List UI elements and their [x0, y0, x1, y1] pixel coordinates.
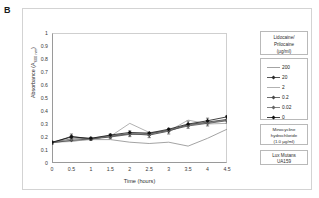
legend-item-label: 2: [282, 85, 285, 90]
y-tick-label: 0: [26, 160, 52, 166]
legend-control-box: Minocycline hydrochloride (1.0 µg/ml): [260, 124, 308, 145]
legend-marker-icon: [266, 63, 281, 72]
legend-marker-icon: [266, 103, 281, 112]
x-tick-label: 3: [167, 166, 170, 172]
legend-item-label: 20: [282, 75, 287, 80]
legend-title-line-2: Prilocaine: [261, 41, 307, 48]
legend-strain-line-2: UA159: [261, 159, 307, 165]
legend-strain-box: Lux Mutans UA159: [260, 150, 308, 165]
legend-marker-icon: [266, 93, 281, 102]
plot-wrapper: 00.10.20.30.40.50.60.70.80.91 00.511.522…: [52, 33, 227, 163]
legend-item[interactable]: 20: [261, 72, 307, 82]
legend-item[interactable]: 0.02: [261, 102, 307, 112]
y-tick-label: 0.6: [26, 82, 52, 88]
legend-marker-icon: [266, 83, 281, 92]
legend-title-line-3: (µg/ml): [261, 48, 307, 55]
legend-marker-icon: [266, 113, 281, 122]
x-tick-label: 2.5: [146, 166, 153, 172]
legend-item-label: 0.2: [282, 95, 289, 100]
legend-items-box: 2002020.20.020: [260, 58, 308, 120]
y-tick-label: 0.7: [26, 69, 52, 75]
legend-item-label: 200: [282, 65, 290, 70]
x-tick-label: 1: [89, 166, 92, 172]
legend-item[interactable]: 200: [261, 62, 307, 72]
y-tick-label: 0.2: [26, 134, 52, 140]
x-tick-label: 3.5: [185, 166, 192, 172]
chart-screenshot: B Absorbance (A600 nm) Time (hours) 00.1…: [0, 0, 319, 198]
legend-item[interactable]: 2: [261, 82, 307, 92]
x-tick-label: 0.5: [68, 166, 75, 172]
plot-series-layer: [52, 33, 227, 163]
panel-label: B: [4, 5, 11, 15]
y-tick-label: 0.1: [26, 147, 52, 153]
legend-item[interactable]: 0: [261, 112, 307, 122]
x-tick-label: 0: [51, 166, 54, 172]
legend-item-label: 0: [282, 115, 285, 120]
legend-title-line-1: Lidocaine/: [261, 34, 307, 41]
series-line: [52, 121, 227, 143]
y-tick-label: 0.8: [26, 56, 52, 62]
series-line: [52, 120, 227, 142]
legend-item-label: 0.02: [282, 105, 291, 110]
y-tick-label: 0.4: [26, 108, 52, 114]
x-tick-label: 1.5: [107, 166, 114, 172]
legend-control-line-3: (1.0 µg/ml): [261, 139, 307, 145]
x-tick-label: 4: [206, 166, 209, 172]
legend-title-box: Lidocaine/ Prilocaine (µg/ml): [260, 31, 308, 55]
x-tick-label: 2: [128, 166, 131, 172]
x-tick-label: 4.5: [223, 166, 230, 172]
y-axis-label-text: Absorbance (A: [30, 62, 36, 98]
x-axis-label: Time (hours): [52, 178, 227, 184]
y-tick-label: 0.9: [26, 43, 52, 49]
legend-marker-icon: [266, 73, 281, 82]
y-tick-label: 0.5: [26, 95, 52, 101]
legend-item[interactable]: 0.2: [261, 92, 307, 102]
y-tick-label: 1: [26, 30, 52, 36]
y-tick-label: 0.3: [26, 121, 52, 127]
